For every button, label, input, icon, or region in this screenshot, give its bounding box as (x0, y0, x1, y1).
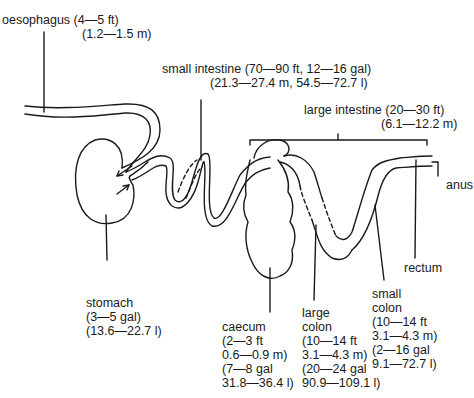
label-stomach: stomach (3—5 gal) (13.6—22.7 l) (86, 296, 162, 338)
label-large-colon: large colon (10—14 ft 3.1—4.3 m) (20—24 … (302, 306, 381, 390)
label-small-colon: small colon (10—14 ft 3.1—4.3 m) (2—16 g… (372, 287, 437, 371)
label-large-intestine: large intestine (20—30 ft) (6.1—12.2 m) (304, 103, 457, 131)
rectum-leader (415, 160, 416, 258)
label-anus: anus (446, 178, 473, 192)
large-colon-leader (314, 225, 316, 300)
label-rectum: rectum (404, 261, 442, 275)
label-caecum: caecum (2—3 ft 0.6—0.9 m) (7—8 gal 31.8—… (222, 320, 294, 390)
stomach-shape (76, 139, 148, 224)
small-colon-leader (375, 205, 384, 280)
caecum-shape (244, 140, 295, 279)
oesophagus-shape (25, 104, 160, 172)
anus-bracket (432, 162, 438, 176)
small-colon-shape (336, 156, 432, 250)
stomach-leader (106, 215, 107, 260)
label-small-intestine: small intestine (70—90 ft, 12—16 gal) (2… (162, 62, 371, 90)
label-oesophagus: oesophagus (4—5 ft) (1.2—1.5 m) (2, 13, 151, 41)
